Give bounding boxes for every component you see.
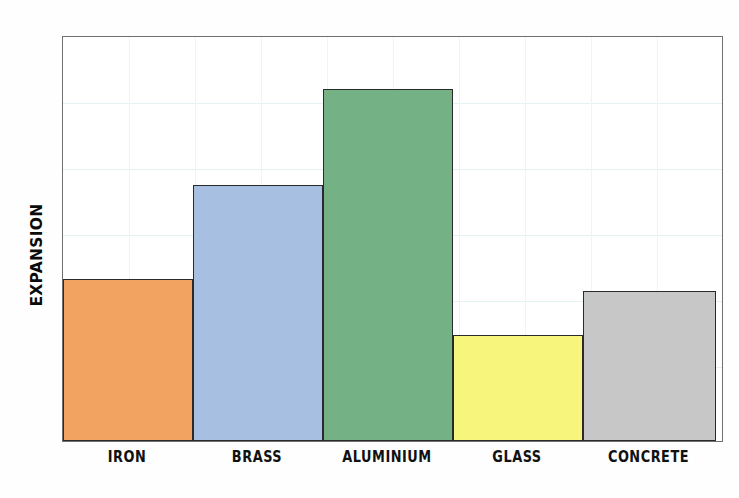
- y-axis-label: EXPANSION: [28, 203, 46, 306]
- x-tick-label-brass: BRASS: [201, 448, 313, 466]
- x-axis-tick-labels: IRONBRASSALUMINIUMGLASSCONCRETE: [62, 448, 723, 474]
- x-tick-label-aluminium: ALUMINIUM: [331, 448, 443, 466]
- bar-aluminium: [323, 89, 453, 441]
- bar-concrete: [583, 291, 716, 441]
- bar-brass: [193, 185, 323, 441]
- y-axis-label-container: EXPANSION: [22, 175, 52, 335]
- plot-area: [62, 36, 723, 442]
- x-tick-label-iron: IRON: [71, 448, 183, 466]
- x-tick-label-glass: GLASS: [461, 448, 573, 466]
- bar-series: [63, 37, 722, 441]
- bar-glass: [453, 335, 583, 441]
- bar-chart-figure: EXPANSION IRONBRASSALUMINIUMGLASSCONCRET…: [0, 0, 739, 498]
- bar-iron: [63, 279, 193, 441]
- x-tick-label-concrete: CONCRETE: [591, 448, 705, 466]
